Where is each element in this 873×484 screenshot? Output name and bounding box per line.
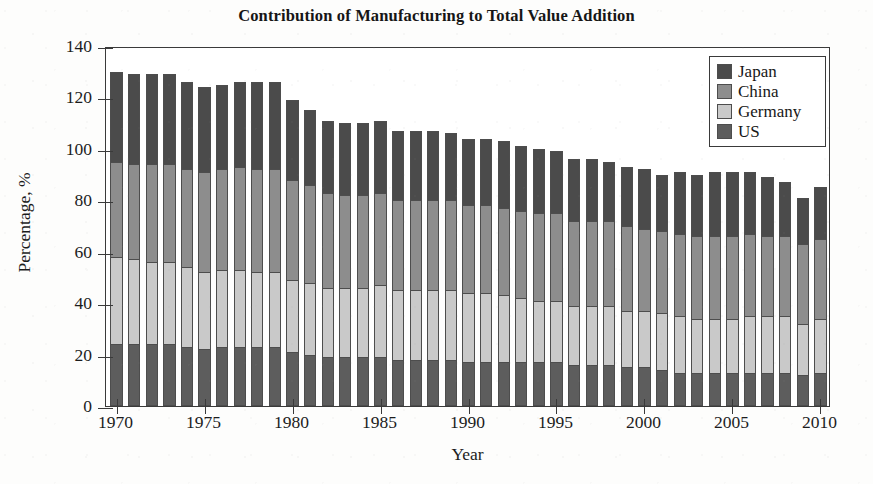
legend-label-china: China <box>738 83 779 100</box>
y-tick-0 <box>98 408 106 409</box>
y-tick-label-80: 80 <box>48 193 92 211</box>
x-tick-label-1975: 1975 <box>169 414 239 432</box>
legend-item-japan[interactable]: Japan <box>717 61 819 81</box>
y-tick-label-60: 60 <box>48 244 92 262</box>
x-tick-label-1970: 1970 <box>81 414 151 432</box>
x-tick-label-2005: 2005 <box>696 414 766 432</box>
legend-label-us: US <box>738 123 760 140</box>
legend-item-us[interactable]: US <box>717 121 819 141</box>
y-tick-label-120: 120 <box>48 90 92 108</box>
x-axis-tick-labels: 197019751980198519901995200020052010 <box>0 414 873 440</box>
page-title: Contribution of Manufacturing to Total V… <box>0 6 873 26</box>
x-tick-label-1995: 1995 <box>520 414 590 432</box>
x-tick-label-1990: 1990 <box>433 414 503 432</box>
y-tick-label-100: 100 <box>48 141 92 159</box>
x-tick-label-1980: 1980 <box>257 414 327 432</box>
legend: JapanChinaGermanyUS <box>709 56 826 147</box>
chart-figure: Contribution of Manufacturing to Total V… <box>0 0 873 484</box>
y-tick-inner-0 <box>106 408 113 409</box>
legend-item-germany[interactable]: Germany <box>717 101 819 121</box>
y-tick-label-40: 40 <box>48 295 92 313</box>
legend-label-japan: Japan <box>738 63 777 80</box>
legend-swatch-germany-icon <box>717 104 732 119</box>
legend-item-china[interactable]: China <box>717 81 819 101</box>
legend-swatch-us-icon <box>717 124 732 139</box>
x-tick-label-2010: 2010 <box>784 414 854 432</box>
y-tick-label-20: 20 <box>48 347 92 365</box>
legend-swatch-china-icon <box>717 84 732 99</box>
x-axis-title: Year <box>105 444 830 465</box>
y-tick-label-140: 140 <box>48 38 92 56</box>
legend-label-germany: Germany <box>738 103 801 120</box>
x-tick-label-2000: 2000 <box>608 414 678 432</box>
legend-swatch-japan-icon <box>717 64 732 79</box>
x-tick-label-1985: 1985 <box>345 414 415 432</box>
